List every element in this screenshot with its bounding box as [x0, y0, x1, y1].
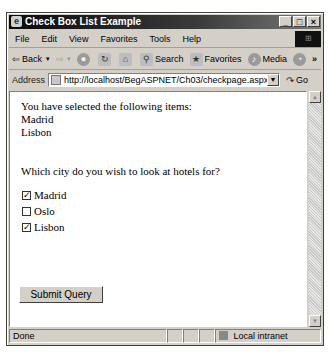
- go-label: Go: [296, 75, 308, 85]
- back-dropdown-icon[interactable]: ▾: [46, 55, 50, 63]
- address-dropdown-icon[interactable]: ▼: [267, 74, 279, 86]
- stop-icon: ●: [77, 53, 90, 66]
- checkbox-madrid[interactable]: ✓: [22, 191, 31, 200]
- window-title: Check Box List Example: [25, 15, 141, 29]
- security-zone: Local intranet: [215, 329, 321, 343]
- zone-label: Local intranet: [234, 331, 288, 341]
- selected-heading: You have selected the following items:: [21, 100, 220, 113]
- option-label: Lisbon: [34, 221, 65, 234]
- address-url[interactable]: http://localhost/BegASPNET/Ch03/checkpag…: [64, 75, 268, 85]
- search-icon: ⚲: [140, 53, 153, 66]
- address-label: Address: [9, 75, 48, 85]
- question-text: Which city do you wish to look at hotels…: [21, 165, 220, 178]
- scroll-up-button[interactable]: ▲: [309, 91, 321, 103]
- status-pane: [199, 329, 215, 343]
- favorites-button[interactable]: ★ Favorites: [187, 53, 245, 66]
- media-button[interactable]: ♪ Media: [245, 53, 291, 66]
- menu-tools[interactable]: Tools: [143, 34, 176, 44]
- selected-item: Madrid: [21, 113, 220, 126]
- scroll-down-button[interactable]: ▼: [309, 315, 321, 327]
- toolbar: ⇦ Back ▾ ⇨ ▾ ● ↻ ⌂ ⚲ Search ★ Favorites …: [9, 49, 321, 70]
- stop-button[interactable]: ●: [74, 53, 95, 66]
- forward-dropdown-icon[interactable]: ▾: [67, 55, 71, 63]
- menu-view[interactable]: View: [63, 34, 94, 44]
- go-arrow-icon: ↷: [286, 75, 294, 86]
- option-label: Oslo: [34, 205, 55, 218]
- submit-query-button[interactable]: Submit Query: [19, 286, 103, 303]
- refresh-icon: ↻: [98, 53, 111, 66]
- home-icon: ⌂: [119, 53, 132, 66]
- home-button[interactable]: ⌂: [116, 53, 137, 66]
- status-text: Done: [9, 329, 167, 343]
- address-input[interactable]: http://localhost/BegASPNET/Ch03/checkpag…: [48, 73, 280, 87]
- media-icon: ♪: [248, 53, 261, 66]
- option-lisbon[interactable]: ✓ Lisbon: [21, 218, 220, 236]
- forward-arrow-icon: ⇨: [56, 54, 64, 64]
- ie-page-icon: e: [11, 16, 22, 27]
- back-button[interactable]: ⇦ Back ▾: [9, 54, 53, 64]
- status-pane: [183, 329, 199, 343]
- address-bar: Address http://localhost/BegASPNET/Ch03/…: [9, 71, 321, 89]
- menu-favorites[interactable]: Favorites: [94, 34, 143, 44]
- title-bar: e Check Box List Example _ □ ×: [9, 15, 321, 29]
- menu-bar: File Edit View Favorites Tools Help ⊞: [9, 31, 321, 48]
- menu-edit[interactable]: Edit: [36, 34, 64, 44]
- history-icon: ◔: [293, 53, 306, 66]
- media-label: Media: [263, 54, 288, 64]
- status-bar: Done Local intranet: [9, 329, 321, 343]
- history-button[interactable]: ◔: [290, 53, 311, 66]
- browser-window: e Check Box List Example _ □ × File Edit…: [6, 12, 324, 346]
- menu-help[interactable]: Help: [176, 34, 207, 44]
- go-button[interactable]: ↷ Go: [286, 75, 308, 86]
- favorites-icon: ★: [190, 53, 203, 66]
- windows-logo-icon: ⊞: [295, 31, 321, 47]
- forward-button[interactable]: ⇨ ▾: [53, 54, 74, 64]
- intranet-zone-icon: [219, 331, 228, 340]
- back-arrow-icon: ⇦: [12, 54, 20, 64]
- option-label: Madrid: [34, 189, 66, 202]
- page-icon: [51, 75, 61, 85]
- close-button[interactable]: ×: [307, 16, 320, 27]
- checkbox-lisbon[interactable]: ✓: [22, 223, 31, 232]
- maximize-button[interactable]: □: [293, 16, 306, 27]
- selected-item: Lisbon: [21, 126, 220, 139]
- page-content: You have selected the following items: M…: [9, 91, 307, 327]
- favorites-label: Favorites: [205, 54, 242, 64]
- vertical-scrollbar[interactable]: ▲ ▼: [309, 91, 321, 327]
- search-button[interactable]: ⚲ Search: [137, 53, 187, 66]
- checkbox-oslo[interactable]: [22, 207, 31, 216]
- toolbar-overflow-button[interactable]: »: [312, 54, 317, 64]
- search-label: Search: [155, 54, 184, 64]
- minimize-button[interactable]: _: [279, 16, 292, 27]
- status-pane: [167, 329, 183, 343]
- refresh-button[interactable]: ↻: [95, 53, 116, 66]
- back-label: Back: [22, 54, 42, 64]
- menu-file[interactable]: File: [9, 34, 36, 44]
